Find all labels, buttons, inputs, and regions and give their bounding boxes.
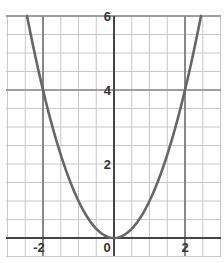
- x-tick-label: 2: [181, 240, 188, 255]
- x-tick-label: -2: [33, 240, 45, 255]
- x-tick-label: 0: [103, 240, 110, 255]
- y-tick-label: 2: [104, 157, 111, 172]
- y-tick-label: 4: [104, 83, 112, 98]
- parabola-chart: -202246: [0, 0, 224, 263]
- y-tick-label: 6: [104, 9, 111, 24]
- tick-labels: -202246: [33, 9, 188, 255]
